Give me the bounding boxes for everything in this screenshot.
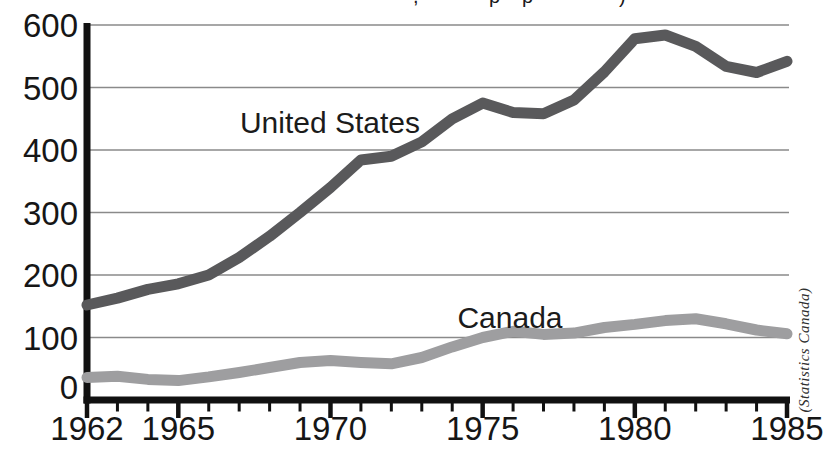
cropped-title-fragments: ,pp) — [0, 0, 828, 8]
series-line-united-states — [87, 35, 787, 305]
chart-figure: ,pp) 01002003004005006001962196519701975… — [0, 0, 828, 474]
y-axis-label-200: 200 — [23, 257, 78, 294]
y-axis-label-100: 100 — [23, 320, 78, 357]
line-chart: 0100200300400500600196219651970197519801… — [0, 0, 828, 474]
series-line-canada — [87, 319, 787, 381]
y-axis-label-0: 0 — [60, 369, 78, 406]
source-note: (Statistics Canada) — [796, 288, 813, 413]
title-fragment-3: ) — [619, 0, 626, 8]
title-fragment-2: p — [522, 0, 533, 8]
title-fragment-0: , — [413, 0, 419, 8]
series-label-canada: Canada — [457, 301, 562, 334]
y-axis-label-500: 500 — [23, 70, 78, 107]
y-axis-label-600: 600 — [23, 7, 78, 44]
y-axis-label-300: 300 — [23, 195, 78, 232]
series-label-united-states: United States — [240, 106, 420, 139]
y-axis-label-400: 400 — [23, 132, 78, 169]
title-fragment-1: p — [489, 0, 500, 8]
